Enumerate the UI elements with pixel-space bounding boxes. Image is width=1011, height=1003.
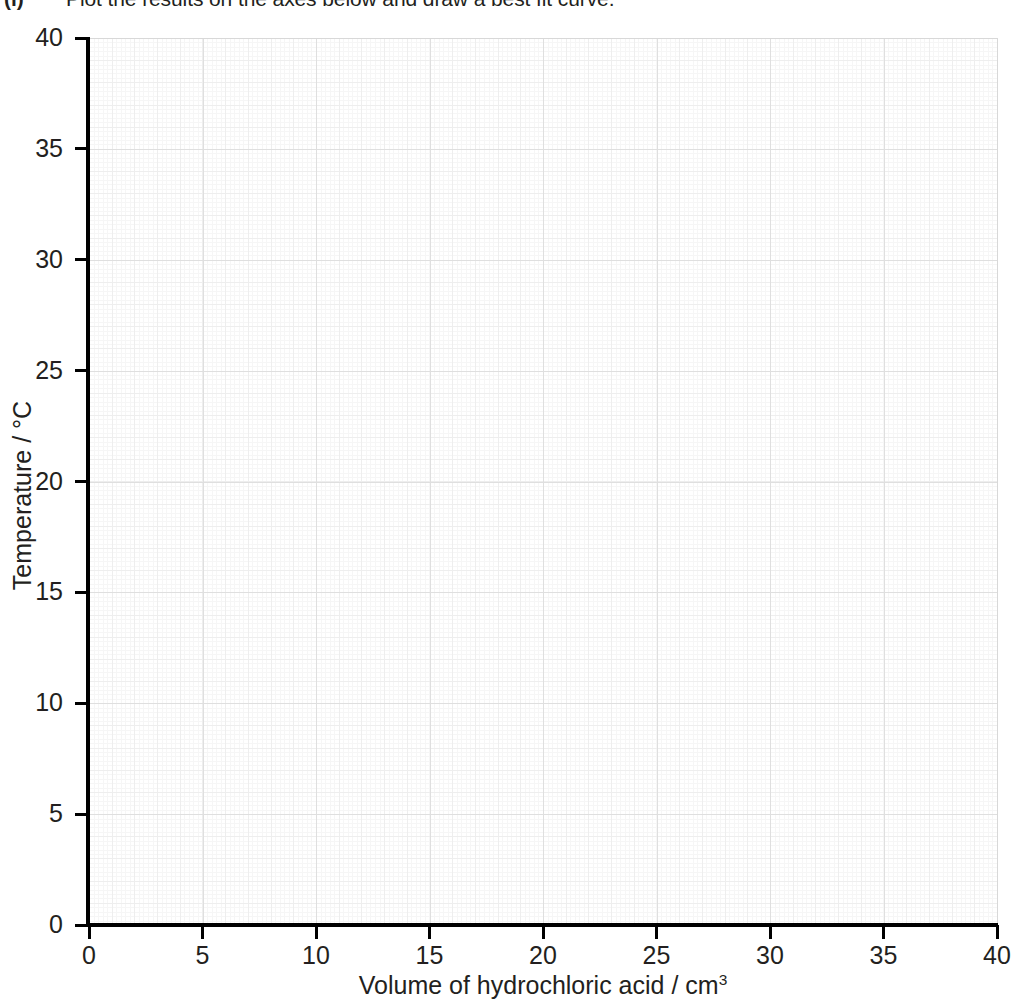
x-axis-tick	[655, 925, 658, 939]
y-axis-tick-label: 25	[35, 358, 63, 383]
x-axis-tick-label: 35	[870, 943, 898, 968]
x-axis-tick	[769, 925, 772, 939]
x-axis-tick	[428, 925, 431, 939]
x-axis-tick-label: 10	[302, 943, 330, 968]
x-axis-tick	[201, 925, 204, 939]
graph-paper-chart: 0510152025303540 0510152025303540 Temper…	[0, 0, 1011, 1003]
x-axis-tick-label: 0	[82, 943, 96, 968]
plot-border-right	[997, 38, 998, 926]
y-axis-title-unit: °C	[8, 401, 36, 429]
x-axis-tick	[882, 925, 885, 939]
y-axis-tick-label: 35	[35, 136, 63, 161]
x-axis-tick	[996, 925, 999, 939]
x-axis-tick-label: 5	[196, 943, 210, 968]
plot-border-top	[89, 38, 998, 39]
y-axis-tick	[75, 591, 89, 594]
y-axis-title-text: Temperature /	[8, 429, 36, 590]
y-axis-tick	[75, 813, 89, 816]
x-axis-title: Volume of hydrochloric acid / cm3	[89, 971, 997, 1000]
x-axis-title-superscript: 3	[719, 971, 728, 988]
y-axis-tick-label: 15	[35, 579, 63, 604]
y-axis-title: Temperature / °C	[8, 216, 37, 776]
y-axis-tick-label: 40	[35, 25, 63, 50]
x-axis-tick	[542, 925, 545, 939]
x-axis-tick-label: 30	[756, 943, 784, 968]
x-axis-tick-label: 40	[983, 943, 1011, 968]
y-axis-tick	[75, 37, 89, 40]
y-axis-tick-label: 20	[35, 469, 63, 494]
x-axis-tick	[88, 925, 91, 939]
x-axis-tick-label: 25	[643, 943, 671, 968]
x-axis-tick-label: 15	[416, 943, 444, 968]
x-axis-tick	[315, 925, 318, 939]
y-axis-tick-label: 0	[49, 912, 63, 937]
y-axis-tick-label: 30	[35, 247, 63, 272]
y-axis-tick-label: 5	[49, 801, 63, 826]
plot-area-grid	[89, 38, 997, 925]
y-axis-tick-label: 10	[35, 690, 63, 715]
y-axis-tick	[75, 258, 89, 261]
y-axis-tick	[75, 480, 89, 483]
x-axis-tick-label: 20	[529, 943, 557, 968]
y-axis-tick	[75, 369, 89, 372]
x-axis-title-text: Volume of hydrochloric acid / cm	[359, 971, 719, 999]
y-axis-tick	[75, 147, 89, 150]
y-axis-tick	[75, 702, 89, 705]
